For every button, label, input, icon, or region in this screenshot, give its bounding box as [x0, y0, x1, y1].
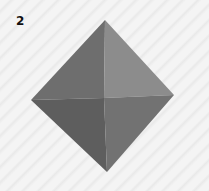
face-bottom-right — [104, 95, 174, 172]
face-top-left — [31, 20, 105, 100]
face-top-right — [104, 20, 174, 98]
face-bottom-left — [31, 98, 107, 172]
pyramid-image — [0, 0, 209, 191]
